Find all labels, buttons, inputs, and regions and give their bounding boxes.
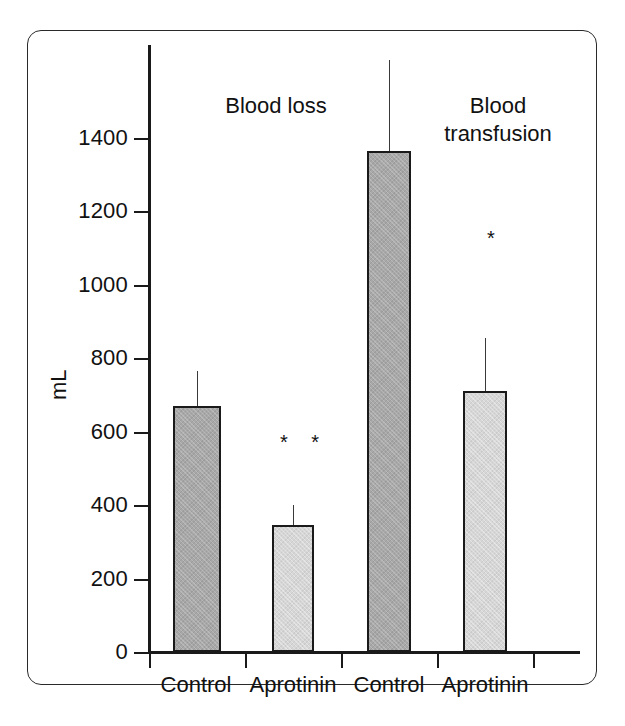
y-tick-0	[134, 652, 148, 654]
significance-marker-blood-loss: * *	[280, 431, 328, 454]
x-label-control-2: Control	[339, 672, 439, 698]
x-tick-0	[149, 653, 151, 668]
significance-marker-blood-transfusion: *	[487, 227, 504, 250]
y-tick-800	[134, 358, 148, 360]
error-bar-1	[197, 371, 199, 408]
y-axis-line	[148, 45, 151, 653]
plot-area: mL 1400 1200 1000 800 600 400 200 0	[0, 0, 625, 726]
group-label-blood-transfusion: Blood transfusion	[408, 92, 588, 148]
y-tick-1200	[134, 211, 148, 213]
x-tick-2	[341, 653, 343, 668]
figure-container: mL 1400 1200 1000 800 600 400 200 0	[0, 0, 625, 726]
y-tick-400	[134, 505, 148, 507]
bar-control-blood-transfusion[interactable]	[367, 151, 411, 652]
caption-strip	[0, 706, 625, 726]
x-tick-3	[437, 653, 439, 668]
y-tick-label-800: 800	[56, 345, 128, 371]
bar-aprotinin-blood-loss[interactable]	[272, 525, 314, 652]
y-tick-label-1400: 1400	[56, 125, 128, 151]
y-tick-label-200: 200	[56, 566, 128, 592]
y-tick-1400	[134, 138, 148, 140]
y-tick-600	[134, 432, 148, 434]
group-label-blood-loss: Blood loss	[186, 92, 366, 120]
x-label-control-1: Control	[146, 672, 246, 698]
y-tick-label-1200: 1200	[56, 198, 128, 224]
x-tick-4	[533, 653, 535, 668]
error-bar-4	[485, 338, 487, 392]
bar-control-blood-loss[interactable]	[173, 406, 221, 652]
y-tick-label-400: 400	[56, 492, 128, 518]
x-label-aprotinin-1: Aprotinin	[238, 672, 348, 698]
y-tick-label-0: 0	[56, 639, 128, 665]
y-tick-1000	[134, 285, 148, 287]
bar-aprotinin-blood-transfusion[interactable]	[463, 391, 507, 652]
y-tick-label-600: 600	[56, 419, 128, 445]
x-tick-1	[245, 653, 247, 668]
y-axis-title: mL	[46, 369, 72, 400]
x-label-aprotinin-2: Aprotinin	[430, 672, 540, 698]
error-bar-2	[293, 505, 295, 527]
error-bar-3	[389, 60, 391, 152]
y-tick-200	[134, 579, 148, 581]
y-tick-label-1000: 1000	[56, 272, 128, 298]
